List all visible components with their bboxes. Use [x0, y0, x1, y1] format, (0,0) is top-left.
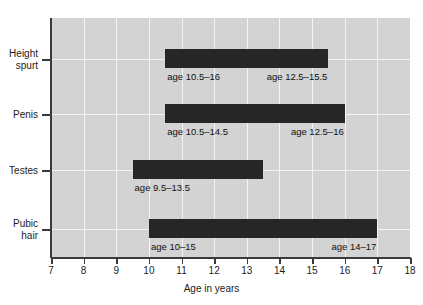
x-axis-tick-label: 15	[297, 265, 327, 277]
x-axis-tick-label: 16	[330, 265, 360, 277]
x-axis-tick-label: 18	[395, 265, 423, 277]
y-axis-tick	[42, 229, 51, 231]
x-axis-tick	[51, 258, 53, 264]
y-axis-tick	[42, 170, 51, 172]
puberty-timeline-chart: Age in years age 10.5–16age 12.5–15.5age…	[0, 0, 423, 305]
x-axis-line	[51, 257, 411, 259]
x-axis-tick	[182, 258, 184, 264]
x-axis-tick	[247, 258, 249, 264]
x-axis-tick	[410, 258, 412, 264]
y-axis-tick	[42, 59, 51, 61]
x-axis-tick	[149, 258, 151, 264]
y-axis-label-penis: Penis	[13, 109, 38, 121]
bar-annotation-right: age 14–17	[0, 241, 376, 252]
bar-annotation-right: age 12.5–16	[0, 126, 344, 137]
bar-annotation-right: age 12.5–15.5	[0, 71, 327, 82]
x-axis-tick-label: 10	[134, 265, 164, 277]
x-axis-tick-label: 13	[232, 265, 262, 277]
x-axis-tick-label: 12	[199, 265, 229, 277]
gridline-vertical	[84, 18, 85, 258]
y-axis-label-testes: Testes	[9, 165, 38, 177]
x-axis-tick-label: 7	[36, 265, 66, 277]
x-axis-tick	[84, 258, 86, 264]
x-axis-tick	[279, 258, 281, 264]
x-axis-title: Age in years	[0, 283, 423, 294]
range-bar	[133, 160, 264, 179]
x-axis-tick	[214, 258, 216, 264]
range-bar	[149, 219, 377, 238]
y-axis-line	[50, 18, 52, 258]
x-axis-tick	[312, 258, 314, 264]
gridline-vertical	[377, 18, 378, 258]
gridline-vertical	[116, 18, 117, 258]
y-axis-tick	[42, 114, 51, 116]
x-axis-tick	[116, 258, 118, 264]
x-axis-tick-label: 14	[264, 265, 294, 277]
x-axis-tick	[377, 258, 379, 264]
x-axis-tick	[345, 258, 347, 264]
y-axis-label-pubic-hair: Pubic hair	[13, 218, 38, 241]
x-axis-tick-label: 11	[167, 265, 197, 277]
y-axis-label-height-spurt: Height spurt	[9, 48, 38, 71]
x-axis-tick-label: 9	[101, 265, 131, 277]
range-bar	[165, 104, 345, 123]
bar-annotation-left: age 9.5–13.5	[135, 182, 190, 193]
x-axis-tick-label: 17	[362, 265, 392, 277]
x-axis-tick-label: 8	[69, 265, 99, 277]
range-bar	[165, 49, 328, 68]
plot-area	[51, 18, 410, 258]
